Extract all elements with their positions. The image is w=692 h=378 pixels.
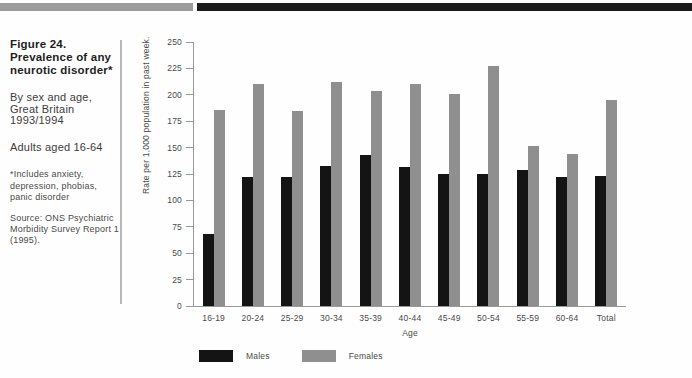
- figure-title-line: Figure 24.: [10, 38, 122, 51]
- bar-females-total: [606, 100, 617, 306]
- x-tick-label-55-59: 55-59: [508, 313, 547, 323]
- bar-females-20-24: [253, 84, 264, 306]
- legend-label-males: Males: [246, 351, 270, 361]
- y-tick-label: 125: [154, 169, 182, 179]
- x-tick-label-30-34: 30-34: [312, 313, 351, 323]
- y-tick-label: 225: [154, 63, 182, 73]
- bar-group-30-34: [312, 42, 351, 306]
- bar-females-60-64: [567, 154, 578, 306]
- figure-subtitle-line: 1993/1994: [10, 115, 122, 127]
- y-tick-mark: [186, 200, 193, 201]
- x-tick-label-20-24: 20-24: [233, 313, 272, 323]
- figure-subtitle: By sex and age, Great Britain 1993/1994: [10, 92, 122, 127]
- y-tick-label: 150: [154, 143, 182, 153]
- x-tick-label-50-54: 50-54: [469, 313, 508, 323]
- bar-females-55-59: [528, 146, 539, 307]
- x-axis-tick-labels: 16-1920-2425-2930-3435-3940-4445-4950-54…: [194, 313, 626, 323]
- legend-item-females: Females: [302, 350, 383, 362]
- bar-group-55-59: [508, 42, 547, 306]
- y-tick-mark: [186, 121, 193, 122]
- y-tick-label: 100: [154, 195, 182, 205]
- y-tick-mark: [186, 147, 193, 148]
- legend-swatch-females: [302, 350, 336, 362]
- y-tick-label: 200: [154, 90, 182, 100]
- bar-group-45-49: [430, 42, 469, 306]
- y-tick-mark: [186, 68, 193, 69]
- figure-title-line: neurotic disorder*: [10, 64, 122, 77]
- y-tick-label: 250: [154, 37, 182, 47]
- header-rule-gray: [0, 3, 193, 11]
- y-tick-mark: [186, 279, 193, 280]
- bar-group-total: [587, 42, 626, 306]
- x-tick-label-25-29: 25-29: [273, 313, 312, 323]
- bar-females-40-44: [410, 84, 421, 306]
- figure-footnote-line: *Includes anxiety,: [10, 169, 122, 181]
- x-tick-label-60-64: 60-64: [547, 313, 586, 323]
- bar-males-40-44: [399, 167, 410, 306]
- legend-swatch-males: [199, 350, 233, 362]
- chart-legend: MalesFemales: [199, 350, 415, 362]
- legend-label-females: Females: [349, 351, 383, 361]
- bar-group-16-19: [194, 42, 233, 306]
- bar-males-30-34: [320, 166, 331, 306]
- bar-group-50-54: [469, 42, 508, 306]
- y-tick-mark: [186, 226, 193, 227]
- bar-females-50-54: [488, 66, 499, 306]
- x-tick-label-40-44: 40-44: [390, 313, 429, 323]
- bar-males-20-24: [242, 177, 253, 306]
- bar-males-16-19: [203, 234, 214, 306]
- x-tick-label-35-39: 35-39: [351, 313, 390, 323]
- plot-area: 16-1920-2425-2930-3435-3940-4445-4950-54…: [193, 42, 626, 307]
- bar-series-container: [194, 42, 626, 306]
- figure-footnote-line: panic disorder: [10, 192, 122, 204]
- x-tick-label-16-19: 16-19: [194, 313, 233, 323]
- y-tick-mark: [186, 94, 193, 95]
- bar-males-50-54: [477, 174, 488, 306]
- figure-footnote-line: depression, phobias,: [10, 181, 122, 193]
- figure-population-text: Adults aged 16-64: [10, 141, 122, 153]
- y-tick-mark: [186, 174, 193, 175]
- figure-footnote: *Includes anxiety, depression, phobias, …: [10, 169, 122, 204]
- bar-females-25-29: [292, 111, 303, 306]
- legend-item-males: Males: [199, 350, 270, 362]
- bar-males-55-59: [517, 170, 528, 306]
- bar-females-16-19: [214, 110, 225, 306]
- figure-title-line: Prevalence of any: [10, 51, 122, 64]
- x-tick-label-total: Total: [587, 313, 626, 323]
- figure-population: Adults aged 16-64: [10, 141, 122, 153]
- bar-group-40-44: [390, 42, 429, 306]
- y-tick-mark: [186, 42, 193, 43]
- bar-group-60-64: [547, 42, 586, 306]
- figure-subtitle-line: By sex and age,: [10, 92, 122, 104]
- x-tick-label-45-49: 45-49: [430, 313, 469, 323]
- bar-males-35-39: [360, 155, 371, 306]
- bar-group-35-39: [351, 42, 390, 306]
- y-tick-mark: [186, 306, 193, 307]
- sidebar-divider-rule: [120, 40, 122, 304]
- report-page: Figure 24. Prevalence of any neurotic di…: [0, 0, 692, 378]
- y-tick-label: 175: [154, 116, 182, 126]
- bar-males-total: [595, 176, 606, 306]
- x-axis-title: Age: [194, 328, 626, 338]
- bar-group-20-24: [233, 42, 272, 306]
- bar-group-25-29: [273, 42, 312, 306]
- y-tick-label: 50: [154, 248, 182, 258]
- y-tick-mark: [186, 253, 193, 254]
- bar-males-45-49: [438, 174, 449, 306]
- bar-females-45-49: [449, 94, 460, 306]
- y-tick-label: 25: [154, 275, 182, 285]
- y-tick-label: 75: [154, 222, 182, 232]
- bar-males-60-64: [556, 177, 567, 306]
- bar-males-25-29: [281, 177, 292, 306]
- bar-females-35-39: [371, 91, 382, 306]
- bar-females-30-34: [331, 82, 342, 306]
- figure-title: Figure 24. Prevalence of any neurotic di…: [10, 38, 122, 77]
- header-rule-black: [197, 3, 692, 11]
- y-tick-label: 0: [154, 301, 182, 311]
